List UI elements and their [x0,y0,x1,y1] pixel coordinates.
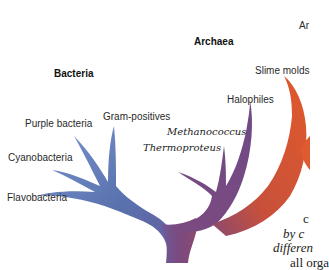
group-label-eukarya-partial: Ar [299,21,309,31]
caption-line-1: c [303,212,309,225]
label-halophiles: Halophiles [227,95,274,105]
caption-line-2: by c [283,227,304,240]
label-slime-molds: Slime molds [255,66,309,76]
group-label-bacteria: Bacteria [54,69,93,79]
label-cyanobacteria: Cyanobacteria [8,153,72,163]
label-gram-positives: Gram-positives [103,112,170,122]
label-methanococcus: Methanococcus [167,127,246,137]
group-label-archaea: Archaea [194,37,233,47]
caption-line-4: all orga [290,256,329,269]
caption-line-3: differen [273,241,313,254]
label-purple-bacteria: Purple bacteria [25,119,92,129]
label-flavobacteria: Flavobacteria [7,193,67,203]
label-thermoproteus: Thermoproteus [143,143,221,153]
